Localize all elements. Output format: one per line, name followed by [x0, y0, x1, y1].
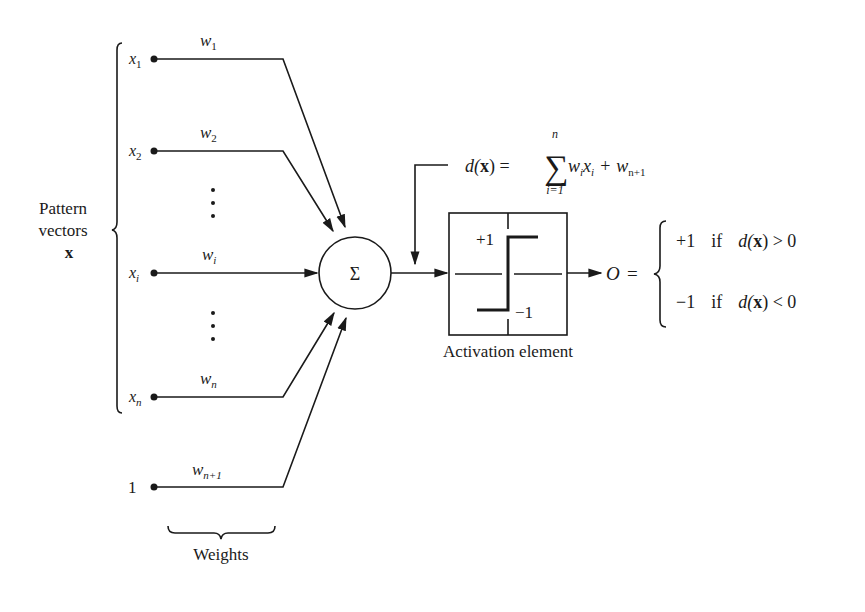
formula-lhs-close: ) =: [489, 156, 510, 177]
svg-text:w1: w1: [200, 31, 217, 52]
activation-minus-one: −1: [515, 303, 533, 322]
formula-pointer-arrow: [415, 165, 448, 264]
weight-var: w: [200, 31, 212, 50]
activation-plus-one: +1: [476, 230, 494, 249]
input-var: x: [128, 264, 136, 281]
svg-text:wn: wn: [200, 369, 217, 390]
input-var: x: [128, 388, 136, 405]
svg-text:xn: xn: [128, 388, 142, 408]
case-value: −1: [676, 292, 695, 312]
svg-text:w2: w2: [200, 123, 217, 144]
svg-text:d(x) =: d(x) =: [465, 156, 510, 177]
bias-value: 1: [128, 478, 137, 497]
svg-text:wn+1: wn+1: [192, 460, 222, 481]
formula-lhs: d(: [465, 156, 481, 177]
pattern-label-line2: vectors: [38, 221, 87, 240]
term-w: w: [568, 156, 580, 176]
pattern-vectors-brace: [112, 43, 122, 413]
input-var: x: [128, 50, 136, 67]
weight-sub: 2: [211, 132, 217, 144]
weight-sub: n+1: [203, 469, 221, 481]
input-xn: xn wn: [128, 313, 334, 408]
activation-element: +1 −1: [449, 213, 567, 335]
sigma-icon: Σ: [350, 264, 360, 284]
svg-text:x2: x2: [128, 142, 142, 162]
svg-text:wixi+wn+1: wixi+wn+1: [568, 156, 646, 178]
case-x: x: [753, 231, 762, 251]
sum-icon: ∑: [544, 149, 568, 187]
input-xi: xi wi: [128, 245, 317, 284]
ellipsis-lower: [211, 311, 215, 341]
input-bias: 1 wn+1: [128, 318, 346, 497]
output-cases-brace: [654, 221, 666, 327]
weight-var: w: [200, 123, 212, 142]
svg-text:x1: x1: [128, 50, 142, 70]
pattern-vectors-label: Pattern vectors x: [38, 199, 87, 262]
input-sub: i: [136, 272, 139, 284]
weights-label: Weights: [193, 545, 248, 564]
sum-lower-limit: i=1: [546, 183, 563, 197]
case-if: if: [711, 231, 722, 251]
weight-var: w: [200, 369, 212, 388]
term-x-sub: i: [591, 166, 594, 178]
case-value: +1: [676, 231, 695, 251]
input-sub: 1: [136, 58, 142, 70]
weight-var: w: [202, 245, 214, 264]
input-var: x: [128, 142, 136, 159]
connection-line: [154, 313, 334, 397]
case-x: x: [753, 292, 762, 312]
ellipsis-upper: [211, 188, 215, 218]
plus-sign: +: [600, 156, 610, 176]
bias-term-sub: n+1: [628, 166, 645, 178]
input-sub: n: [136, 396, 142, 408]
case-relation: ) > 0: [762, 231, 796, 252]
connection-line: [154, 151, 333, 231]
output-equation: O = +1ifd(x) > 0 −1ifd(x) < 0: [606, 221, 796, 327]
pattern-label-line1: Pattern: [39, 199, 88, 218]
svg-text:wi: wi: [202, 245, 216, 266]
bias-term: w: [616, 156, 628, 176]
weight-sub: n: [211, 378, 217, 390]
input-x2: x2 w2: [128, 123, 333, 231]
output-equals: =: [627, 263, 638, 284]
weight-var: w: [192, 460, 204, 479]
case-if: if: [711, 292, 722, 312]
summation-node: Σ: [319, 237, 391, 309]
output-symbol: O: [606, 263, 620, 284]
case-lhs: d(: [738, 231, 754, 252]
input-sub: 2: [136, 150, 142, 162]
weights-brace: [168, 526, 275, 539]
connection-line: [154, 59, 345, 227]
perceptron-diagram: Pattern vectors x x1 w1 x2 w2 xi wi x: [0, 0, 865, 612]
weight-sub: 1: [211, 40, 217, 52]
case-lhs: d(: [738, 292, 754, 313]
weight-sub: i: [213, 254, 216, 266]
term-x: x: [582, 156, 591, 176]
activation-element-label: Activation element: [443, 342, 573, 361]
case-relation: ) < 0: [762, 292, 796, 313]
output-case-negative: −1ifd(x) < 0: [676, 292, 796, 313]
output-case-positive: +1ifd(x) > 0: [676, 231, 796, 252]
connection-line: [154, 318, 346, 487]
formula-lhs-x: x: [480, 156, 489, 176]
decision-function-formula: d(x) = ∑ n i=1 wixi+wn+1: [465, 127, 646, 197]
svg-text:xi: xi: [128, 264, 139, 284]
pattern-label-symbol: x: [65, 243, 74, 262]
sum-upper-limit: n: [552, 127, 558, 141]
